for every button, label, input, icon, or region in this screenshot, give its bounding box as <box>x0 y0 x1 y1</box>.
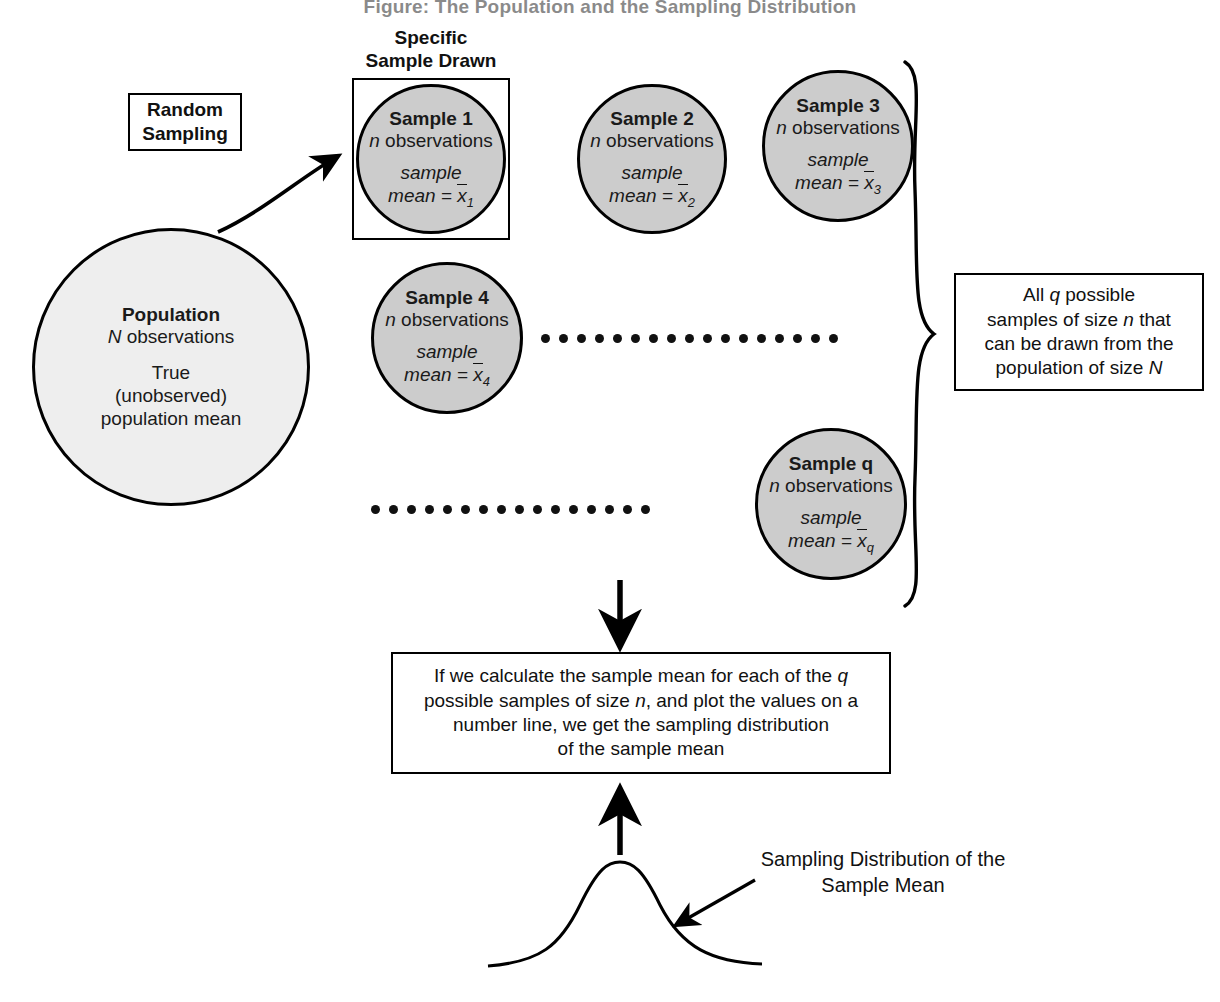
sample-circle-4: Sample 4 n observations sample mean = x4 <box>371 262 523 414</box>
all-samples-line-1: All q possible <box>1023 283 1135 307</box>
sample-q-title: Sample q <box>789 453 873 475</box>
sample-4-n-symbol: n <box>385 309 396 330</box>
result-l2a: possible samples of size <box>424 690 635 711</box>
random-sampling-box: Random Sampling <box>128 93 242 151</box>
ellipsis-dot <box>371 505 380 514</box>
population-title: Population <box>122 304 220 326</box>
dots-row-bottom <box>371 505 650 514</box>
sample-2-n-symbol: n <box>590 130 601 151</box>
random-sampling-arrow <box>218 156 338 232</box>
ellipsis-dot <box>569 505 578 514</box>
sample-2-mean: mean = x2 <box>609 185 695 210</box>
sample-3-n-symbol: n <box>776 117 787 138</box>
result-line-4: of the sample mean <box>558 737 725 761</box>
ellipsis-dot <box>559 334 568 343</box>
sampling-distribution-label: Sampling Distribution of the Sample Mean <box>718 846 1048 898</box>
sample-3-observations-text: observations <box>787 117 900 138</box>
sample-q-observations-text: observations <box>780 475 893 496</box>
population-observations: N observations <box>108 326 235 349</box>
sample-3-sample-word: sample <box>807 149 868 172</box>
sample-4-mean-prefix: mean = <box>404 364 473 385</box>
ellipsis-dot <box>811 334 820 343</box>
sample-2-mean-var: x <box>678 185 688 208</box>
sample-q-mean-var: x <box>857 530 867 553</box>
ellipsis-dot <box>541 334 550 343</box>
ellipsis-dot <box>389 505 398 514</box>
ellipsis-dot <box>407 505 416 514</box>
sample-q-mean: mean = xq <box>788 530 874 555</box>
sample-3-mean-var: x <box>864 172 874 195</box>
specific-sample-caption: Specific Sample Drawn <box>352 26 510 72</box>
all-samples-l1b: q <box>1049 284 1060 305</box>
sample-3-title: Sample 3 <box>796 95 879 117</box>
ellipsis-dot <box>443 505 452 514</box>
sample-3-mean-prefix: mean = <box>795 172 864 193</box>
population-line-mean: population mean <box>101 408 242 431</box>
sample-1-observations-text: observations <box>380 130 493 151</box>
sample-4-mean-var: x <box>473 364 483 387</box>
sample-2-sample-word: sample <box>621 162 682 185</box>
sample-1-mean: mean = x1 <box>388 185 474 210</box>
population-circle: Population N observations True (unobserv… <box>32 228 310 506</box>
sample-circle-2: Sample 2 n observations sample mean = x2 <box>577 84 727 234</box>
ellipsis-dot <box>739 334 748 343</box>
all-samples-line-2: samples of size n that <box>987 308 1171 332</box>
population-line-true: True <box>152 362 190 385</box>
sample-4-title: Sample 4 <box>405 287 488 309</box>
sample-1-title: Sample 1 <box>389 108 472 130</box>
ellipsis-dot <box>425 505 434 514</box>
random-sampling-line2: Sampling <box>142 122 228 146</box>
ellipsis-dot <box>641 505 650 514</box>
ellipsis-dot <box>497 505 506 514</box>
ellipsis-dot <box>461 505 470 514</box>
all-samples-l2c: that <box>1134 309 1171 330</box>
sample-1-sample-word: sample <box>400 162 461 185</box>
random-sampling-line1: Random <box>147 98 223 122</box>
all-samples-line-3: can be drawn from the <box>984 332 1173 356</box>
sample-q-observations: n observations <box>769 475 893 498</box>
ellipsis-dot <box>721 334 730 343</box>
sample-1-n-symbol: n <box>369 130 380 151</box>
all-samples-line-4: population of size N <box>996 356 1163 380</box>
sample-circle-3: Sample 3 n observations sample mean = x3 <box>762 70 914 222</box>
ellipsis-dot <box>605 505 614 514</box>
sample-2-mean-prefix: mean = <box>609 185 678 206</box>
sample-4-mean: mean = x4 <box>404 364 490 389</box>
all-samples-l2b: n <box>1123 309 1134 330</box>
ellipsis-dot <box>703 334 712 343</box>
result-l1b: q <box>837 665 848 686</box>
ellipsis-dot <box>623 505 632 514</box>
sample-2-observations-text: observations <box>601 130 714 151</box>
sample-circle-q: Sample q n observations sample mean = xq <box>755 428 907 580</box>
result-line-3: number line, we get the sampling distrib… <box>453 713 829 737</box>
ellipsis-dot <box>649 334 658 343</box>
sample-4-mean-sub: 4 <box>483 374 490 389</box>
sample-1-mean-sub: 1 <box>467 195 474 210</box>
sample-circle-1: Sample 1 n observations sample mean = x1 <box>356 84 506 234</box>
specific-sample-caption-line2: Sample Drawn <box>352 49 510 72</box>
sample-1-observations: n observations <box>369 130 493 153</box>
all-samples-l2a: samples of size <box>987 309 1123 330</box>
population-observations-text: observations <box>121 326 234 347</box>
population-line-unobserved: (unobserved) <box>115 385 227 408</box>
sample-q-mean-prefix: mean = <box>788 530 857 551</box>
result-line-1: If we calculate the sample mean for each… <box>434 664 848 688</box>
sample-3-mean-sub: 3 <box>874 182 881 197</box>
result-line-2: possible samples of size n, and plot the… <box>424 689 858 713</box>
sample-1-mean-var: x <box>457 185 467 208</box>
ellipsis-dot <box>685 334 694 343</box>
ellipsis-dot <box>667 334 676 343</box>
sample-4-observations: n observations <box>385 309 509 332</box>
sample-2-title: Sample 2 <box>610 108 693 130</box>
sample-2-observations: n observations <box>590 130 714 153</box>
population-n-symbol: N <box>108 326 122 347</box>
sample-2-mean-sub: 2 <box>688 195 695 210</box>
ellipsis-dot <box>829 334 838 343</box>
ellipsis-dot <box>793 334 802 343</box>
sample-3-mean: mean = x3 <box>795 172 881 197</box>
all-samples-l1c: possible <box>1060 284 1135 305</box>
page-title: Figure: The Population and the Sampling … <box>0 0 1220 18</box>
sample-q-mean-sub: q <box>867 540 874 555</box>
ellipsis-dot <box>533 505 542 514</box>
ellipsis-dot <box>551 505 560 514</box>
